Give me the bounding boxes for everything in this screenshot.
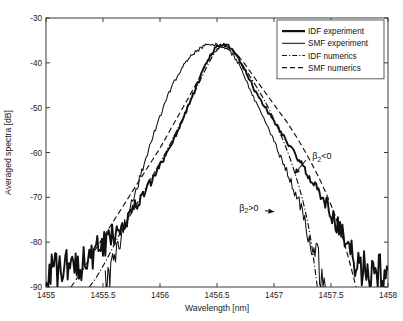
- figure-container: 14551455.514561456.514571457.51458-90-80…: [0, 0, 403, 321]
- annotation-label: β2<0: [312, 151, 331, 163]
- x-tick-label: 1456.5: [204, 291, 229, 300]
- x-tick-label: 1457.5: [318, 291, 343, 300]
- y-tick-label: -70: [30, 193, 42, 202]
- curves-group: [46, 43, 388, 287]
- legend-label: IDF experiment: [308, 27, 365, 36]
- annotation-beta2-positive: β2>0: [239, 203, 274, 215]
- x-tick-label: 1455.5: [90, 291, 115, 300]
- y-axis-title: Averaged spectra [dB]: [3, 110, 13, 195]
- y-tick-label: -80: [30, 238, 42, 247]
- y-tick-label: -40: [30, 59, 42, 68]
- series-idf-experiment: [46, 44, 388, 287]
- legend-label: IDF numerics: [308, 52, 357, 61]
- x-tick-label: 1457: [265, 291, 284, 300]
- chart-legend: IDF experimentSMF experimentIDF numerics…: [277, 20, 384, 79]
- x-tick-label: 1455: [37, 291, 56, 300]
- x-tick-label: 1458: [379, 291, 398, 300]
- spectrum-chart: 14551455.514561456.514571457.51458-90-80…: [0, 0, 403, 321]
- y-tick-label: -30: [30, 14, 42, 23]
- series-smf-experiment: [105, 43, 325, 287]
- y-tick-label: -50: [30, 104, 42, 113]
- series-idf-numerics: [89, 48, 317, 287]
- annotation-label: β2>0: [239, 203, 258, 215]
- y-tick-label: -60: [30, 149, 42, 158]
- x-axis-title: Wavelength [nm]: [185, 303, 249, 313]
- y-tick-label: -90: [30, 283, 42, 292]
- annotations-group: β2<0β2>0: [239, 151, 331, 214]
- legend-label: SMF experiment: [308, 39, 369, 48]
- legend-label: SMF numerics: [308, 64, 361, 73]
- x-tick-label: 1456: [151, 291, 170, 300]
